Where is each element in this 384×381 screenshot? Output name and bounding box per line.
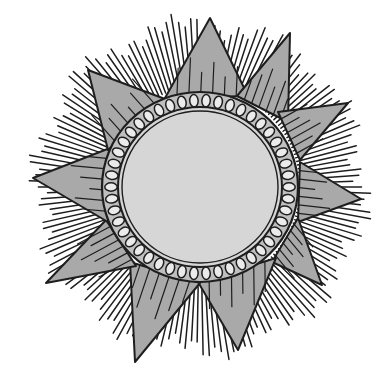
ray-line xyxy=(202,287,203,355)
sun-point xyxy=(165,18,248,98)
sun-face xyxy=(118,107,282,267)
bead xyxy=(283,183,295,191)
ray-line xyxy=(58,126,108,148)
bead xyxy=(201,267,210,280)
ray-line xyxy=(197,287,198,342)
bead xyxy=(201,94,210,107)
ray-line xyxy=(46,134,105,154)
sun-drawing xyxy=(0,0,384,381)
bead xyxy=(105,183,117,191)
bead xyxy=(189,267,198,280)
sun-illustration xyxy=(0,0,384,381)
bead xyxy=(189,94,198,107)
ray-line xyxy=(148,27,169,92)
ray-line xyxy=(191,287,194,341)
